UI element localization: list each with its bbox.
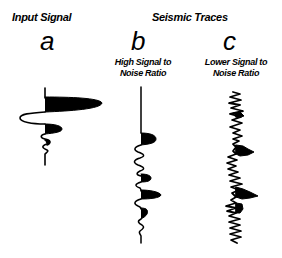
high-snr-trace (134, 87, 161, 243)
low-snr-trace (226, 92, 258, 243)
traces-drawing (0, 0, 282, 258)
input-wavelet-trace (20, 88, 102, 165)
